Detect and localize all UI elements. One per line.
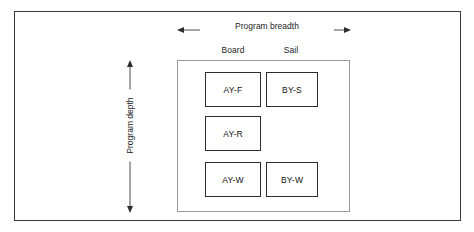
arrow-left-icon	[177, 27, 184, 33]
product-box-freeride-board: AY-F	[205, 72, 261, 107]
matrix-container	[177, 60, 350, 212]
arrow-down-icon	[127, 206, 133, 213]
product-box-freeride-sail: BY-S	[266, 72, 318, 107]
product-box-wave-board: AY-W	[205, 162, 261, 197]
arrow-right-icon	[344, 27, 351, 33]
product-box-race-board: AY-R	[205, 116, 261, 151]
arrow-up-icon	[127, 60, 133, 67]
column-header-board: Board	[205, 45, 261, 55]
program-depth-label: Program depth	[124, 90, 137, 162]
program-breadth-label: Program breadth	[200, 21, 334, 31]
diagram-canvas: Program breadth Program depth Board Sail…	[0, 0, 474, 232]
product-box-wave-sail: BY-W	[266, 162, 318, 197]
column-header-sail: Sail	[265, 45, 317, 55]
